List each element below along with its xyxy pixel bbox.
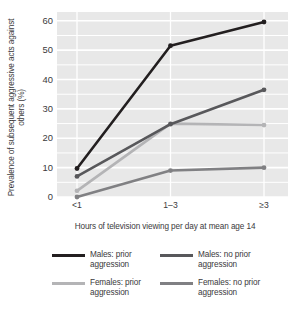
data-point [75,174,80,179]
x-tick-label: <1 [54,200,100,210]
data-point [262,87,267,92]
y-tick-label: 50 [13,44,53,55]
legend-label: Males: prior aggression [90,250,132,270]
x-tick-label: ≥3 [241,200,287,210]
figure: Prevalence of subsequent aggressive acts… [0,0,298,315]
data-point [168,43,173,48]
legend-item-females-no-prior: Females: no prior aggression [160,278,295,298]
data-point [262,20,267,25]
data-point [75,188,80,193]
legend-item-males-prior: Males: prior aggression [52,250,152,270]
legend-swatch-icon [52,254,85,257]
plot-area [57,12,288,197]
legend-swatch-icon [52,282,85,285]
x-tick-label: 1–3 [148,200,194,210]
data-point [262,165,267,170]
data-point [168,122,173,127]
legend-label: Males: no prior aggression [198,250,251,270]
legend-label: Females: prior aggression [90,278,141,298]
y-tick-label: 0 [13,191,53,202]
data-point [75,195,80,200]
legend-item-males-no-prior: Males: no prior aggression [160,250,295,270]
legend-label: Females: no prior aggression [198,278,260,298]
data-point [75,166,80,171]
data-point [168,168,173,173]
y-tick-label: 20 [13,132,53,143]
legend: Males: prior aggression Males: no prior … [0,250,298,312]
data-point [262,123,267,128]
y-tick-label: 10 [13,162,53,173]
chart-canvas [57,12,288,197]
x-axis-label: Hours of television viewing per day at m… [36,222,294,231]
legend-swatch-icon [160,254,193,257]
y-tick-label: 30 [13,103,53,114]
legend-swatch-icon [160,282,193,285]
y-tick-label: 40 [13,74,53,85]
legend-item-females-prior: Females: prior aggression [52,278,152,298]
y-tick-label: 60 [13,15,53,26]
